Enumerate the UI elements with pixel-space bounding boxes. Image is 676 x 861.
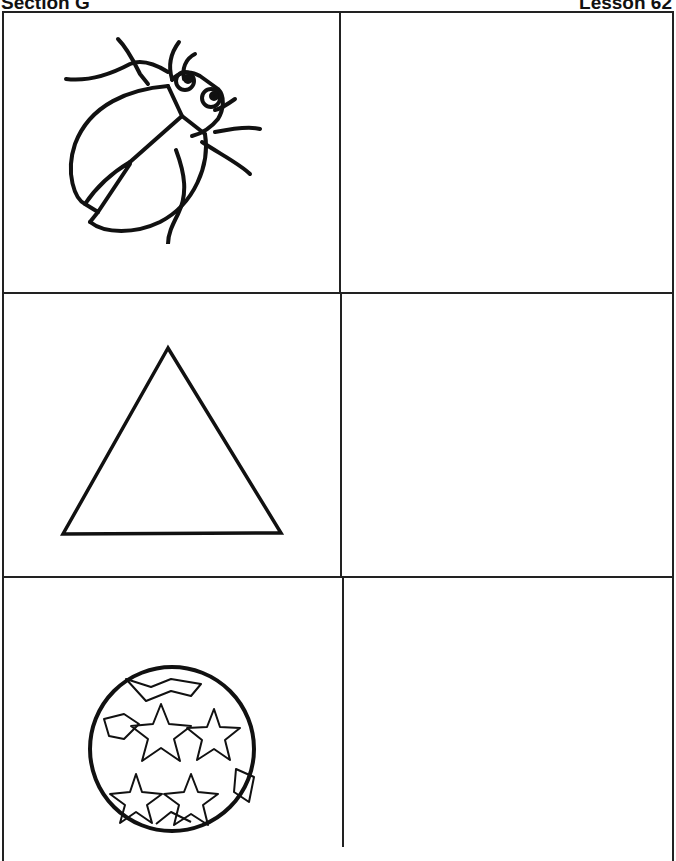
beetle-picture [60, 34, 285, 244]
answer-box-1[interactable] [341, 13, 672, 292]
answer-box-3[interactable] [344, 578, 672, 847]
answer-box-2[interactable] [342, 294, 672, 576]
star-ball-picture [86, 664, 258, 834]
triangle-picture [60, 344, 286, 539]
